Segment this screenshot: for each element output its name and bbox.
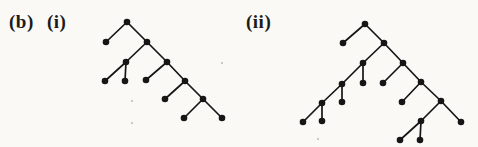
tree-node [164, 59, 171, 66]
tree-edge [185, 81, 203, 99]
tree-edge [203, 99, 222, 118]
tree-edge [421, 101, 441, 121]
tree-node [144, 39, 151, 46]
tree-node [200, 96, 207, 103]
tree-node [319, 100, 326, 107]
tree-edge [105, 62, 126, 81]
tree-node [360, 80, 367, 87]
tree-edge [146, 62, 167, 80]
tree-edge [383, 63, 403, 83]
tree-node [380, 80, 387, 87]
tree-edge [147, 42, 167, 62]
tree-node [400, 60, 407, 67]
tree-edge [184, 99, 203, 118]
tree-edge [363, 43, 384, 63]
tree-node [123, 59, 130, 66]
tree-node [362, 21, 369, 28]
tree-node [340, 40, 347, 47]
tree-edge [343, 24, 365, 43]
tree-node [418, 79, 425, 86]
tree-node [339, 99, 346, 106]
tree-node [438, 98, 445, 105]
figure-canvas: (b) (i) (ii) [0, 0, 478, 147]
tree-node [124, 19, 131, 26]
tree-node [417, 137, 424, 144]
tree-node [181, 115, 188, 122]
tree-edge [303, 103, 322, 122]
tree-edge [126, 42, 147, 62]
tree-edge [165, 81, 185, 99]
tree-node [381, 40, 388, 47]
tree-edge [365, 24, 384, 43]
tree-node [182, 78, 189, 85]
tree-edge [167, 62, 185, 81]
tree-edge [127, 22, 147, 42]
print-speck [131, 122, 133, 124]
print-speck [317, 138, 319, 140]
tree-edge [322, 84, 342, 103]
tree-node [300, 119, 307, 126]
tree-node [103, 39, 110, 46]
tree-i-diagram [102, 19, 226, 122]
tree-node [319, 118, 326, 125]
tree-edge [421, 82, 441, 101]
tree-node [360, 60, 367, 67]
tree-edge [106, 22, 127, 42]
tree-node [418, 118, 425, 125]
tree-edge [342, 63, 363, 84]
tree-node [458, 119, 465, 126]
tree-node [339, 81, 346, 88]
tree-node [122, 78, 129, 85]
tree-node [102, 78, 109, 85]
print-speck [221, 62, 223, 64]
tree-edge [402, 82, 421, 102]
tree-diagrams-svg [0, 0, 478, 147]
tree-node [162, 96, 169, 103]
tree-edge [441, 101, 461, 122]
print-speck [131, 100, 133, 102]
tree-edge [400, 121, 421, 140]
tree-node [219, 115, 226, 122]
tree-node [399, 99, 406, 106]
tree-ii-diagram [300, 21, 465, 144]
tree-edge [384, 43, 403, 63]
tree-node [143, 77, 150, 84]
tree-node [397, 137, 404, 144]
tree-edge [403, 63, 421, 82]
